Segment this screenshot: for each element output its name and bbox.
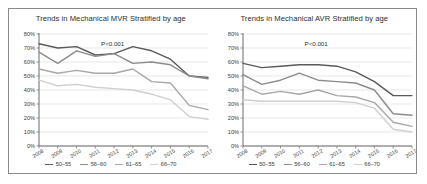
legend-line-swatch-icon [115,164,123,165]
y-axis-tick-label: 50% [227,73,238,79]
legend-item-label: 66–70 [161,161,177,167]
y-axis-tick-label: 40% [227,87,238,93]
x-axis-tick-label: 2009 [254,148,267,159]
figure-container: Trends in Mechanical MVR Stratified by a… [8,8,417,174]
chart-legend-avr: 50–5556–6061–6566–70 [213,161,417,167]
x-axis-tick-label: 2017 [404,148,417,159]
legend-item-label: 56–60 [294,161,310,167]
x-axis-tick-label: 2013 [125,148,138,159]
chart-legend-mvr: 50–5556–6061–6566–70 [9,161,213,167]
legend-item[interactable]: 61–65 [115,161,141,167]
y-axis-tick-label: 80% [24,31,35,37]
pvalue-annotation-mvr: P<0.001 [101,40,124,47]
legend-item-label: 61–65 [329,161,345,167]
x-axis-tick-label: 2011 [88,148,101,159]
legend-line-swatch-icon [354,164,362,165]
plot-area-avr: 0%10%20%30%40%50%60%70%80%20082009201020… [213,9,417,173]
y-axis-tick-label: 20% [24,115,35,121]
y-axis-tick-label: 30% [227,101,238,107]
x-axis-tick-label: 2008 [31,148,44,159]
x-axis-tick-label: 2008 [235,148,248,159]
legend-item-label: 50–55 [259,161,275,167]
x-axis-tick-label: 2009 [50,148,63,159]
legend-item[interactable]: 66–70 [150,161,176,167]
legend-item-label: 50–55 [56,161,72,167]
x-axis-tick-label: 2017 [200,148,213,159]
y-axis-tick-label: 30% [24,101,35,107]
x-axis-tick-label: 2012 [106,148,119,159]
x-axis-tick-label: 2012 [310,148,323,159]
y-axis-tick-label: 80% [227,31,238,37]
y-axis-tick-label: 50% [24,73,35,79]
legend-item[interactable]: 66–70 [354,161,380,167]
y-axis-tick-label: 0% [27,143,35,149]
x-axis-tick-label: 2015 [366,148,379,159]
chart-panel-avr: Trends in Mechanical AVR Stratified by a… [213,9,417,173]
y-axis-tick-label: 70% [24,45,35,51]
line-chart-avr: 0%10%20%30%40%50%60%70%80%20082009201020… [213,9,417,173]
y-axis-tick-label: 70% [227,45,238,51]
x-axis-tick-label: 2014 [347,148,360,159]
chart-panel-mvr: Trends in Mechanical MVR Stratified by a… [9,9,213,173]
x-axis-tick-label: 2016 [181,148,194,159]
data-series-line [243,63,412,95]
x-axis-tick-label: 2013 [329,148,342,159]
y-axis-tick-label: 10% [24,129,35,135]
legend-item[interactable]: 61–65 [319,161,345,167]
legend-item[interactable]: 56–60 [80,161,106,167]
data-series-line [39,51,208,79]
x-axis-tick-label: 2016 [385,148,398,159]
legend-item[interactable]: 50–55 [45,161,71,167]
x-axis-tick-label: 2014 [144,148,157,159]
y-axis-tick-label: 10% [227,129,238,135]
legend-line-swatch-icon [319,164,327,165]
y-axis-tick-label: 60% [24,59,35,65]
legend-line-swatch-icon [150,164,158,165]
legend-item-label: 66–70 [364,161,380,167]
y-axis-tick-label: 40% [24,87,35,93]
legend-line-swatch-icon [284,164,292,165]
legend-line-swatch-icon [45,164,53,165]
line-chart-mvr: 0%10%20%30%40%50%60%70%80%20082009201020… [9,9,213,173]
legend-item[interactable]: 50–55 [249,161,275,167]
x-axis-tick-label: 2010 [272,148,285,159]
x-axis-tick-label: 2015 [163,148,176,159]
legend-line-swatch-icon [80,164,88,165]
legend-item-label: 61–65 [126,161,142,167]
y-axis-tick-label: 0% [230,143,238,149]
plot-area-mvr: 0%10%20%30%40%50%60%70%80%20082009201020… [9,9,213,173]
pvalue-annotation-avr: P<0.001 [305,40,328,47]
legend-item-label: 56–60 [91,161,107,167]
data-series-line [39,80,208,119]
y-axis-tick-label: 60% [227,59,238,65]
x-axis-tick-label: 2010 [69,148,82,159]
x-axis-tick-label: 2011 [291,148,304,159]
y-axis-tick-label: 20% [227,115,238,121]
legend-item[interactable]: 56–60 [284,161,310,167]
legend-line-swatch-icon [249,164,257,165]
data-series-line [243,73,412,115]
